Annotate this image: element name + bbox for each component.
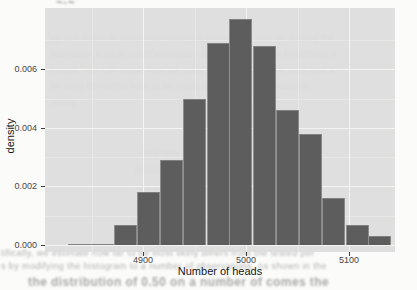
histogram-bar	[137, 192, 160, 245]
x-minor-gridline	[92, 8, 93, 252]
x-axis-tick-label: 5000	[236, 255, 256, 265]
histogram-figure: 4900500051000.0000.0020.0040.006 Number …	[0, 0, 417, 290]
scanned-page: ~·~ap see it b/w or about the transport …	[0, 0, 417, 290]
histogram-bar	[229, 19, 252, 245]
histogram-bar	[114, 225, 137, 246]
y-axis-tick-label: 0.002	[3, 181, 37, 191]
histogram-bar	[276, 110, 299, 245]
histogram-bar	[346, 225, 369, 246]
histogram-bar	[160, 160, 183, 245]
y-axis-tick-label: 0.000	[3, 240, 37, 250]
y-minor-gridline	[45, 40, 395, 41]
histogram-bar	[322, 198, 345, 245]
x-axis-tick-label: 5100	[339, 255, 359, 265]
y-axis-tick	[41, 128, 45, 129]
histogram-bar	[299, 134, 322, 245]
histogram-bar	[91, 244, 114, 246]
chart-panel	[45, 8, 395, 252]
histogram-bar	[68, 244, 91, 246]
y-axis-tick	[41, 245, 45, 246]
x-axis-tick-label: 4900	[133, 255, 153, 265]
x-axis-title: Number of heads	[178, 265, 262, 277]
y-axis-title: density	[4, 112, 16, 160]
y-axis-tick	[41, 69, 45, 70]
y-axis-tick	[41, 186, 45, 187]
y-major-gridline	[45, 245, 395, 246]
y-axis-tick-label: 0.006	[3, 64, 37, 74]
histogram-bar	[183, 99, 206, 246]
histogram-bar	[207, 43, 230, 245]
histogram-bar	[253, 46, 276, 245]
x-major-gridline	[349, 8, 350, 252]
histogram-bar	[368, 236, 391, 245]
